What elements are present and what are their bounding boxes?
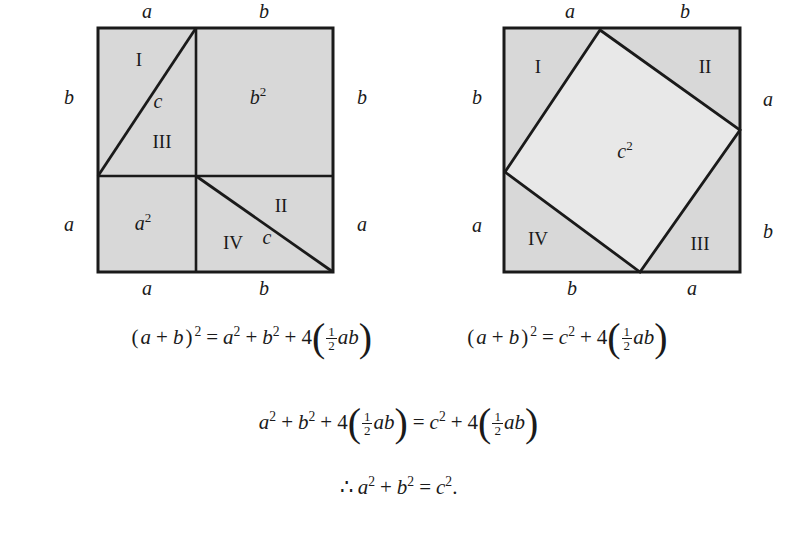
eq1r-fraction-half: 12: [621, 325, 634, 353]
eq3-equals: =: [414, 475, 436, 499]
left-label-bottom-b: b: [259, 277, 269, 299]
right-label-top-a: a: [565, 0, 575, 22]
dissection-square-right: a b b a a b b a I II III IV c2: [472, 0, 773, 299]
left-label-region-I: I: [136, 49, 142, 70]
left-label-hypotenuse-c-upper: c: [154, 90, 163, 112]
right-label-bottom-b: b: [567, 277, 577, 299]
eq2-a: a: [259, 410, 270, 434]
eq3-b: b: [397, 475, 408, 499]
right-label-bottom-a: a: [687, 277, 697, 299]
left-label-region-III: III: [153, 131, 172, 152]
eq2-big-lparen-2: (: [478, 411, 491, 436]
eq1r-frac-num: 1: [622, 325, 633, 338]
eq2-equals: =: [408, 410, 430, 434]
eq3-therefore-symbol: ∴: [340, 475, 358, 499]
left-label-top-b: b: [259, 0, 269, 22]
eq2-four-1: 4: [337, 410, 348, 434]
eq1l-a2: a: [223, 325, 234, 349]
equation-row-2: a2+b2+4(12ab)=c2+4(12ab): [0, 410, 797, 438]
eq1r-big-rparen: ): [654, 326, 667, 351]
eq1r-close-paren: ): [519, 325, 530, 349]
eq2-b: b: [298, 410, 309, 434]
eq2-fraction-half-1: 12: [361, 410, 374, 438]
eq1r-a: a: [476, 325, 487, 349]
eq1r-b: b: [509, 325, 520, 349]
eq2-big-lparen-1: (: [348, 411, 361, 436]
left-label-top-a: a: [142, 0, 152, 22]
eq2-ab-1: ab: [373, 410, 394, 434]
equation-right-expansion: (a+b)2=c2+4(12ab): [465, 325, 667, 353]
eq1l-close-paren: ): [183, 325, 194, 349]
eq3-c: c: [436, 475, 445, 499]
eq2-plus-3: +: [446, 410, 468, 434]
eq1l-b: b: [173, 325, 184, 349]
eq2-frac1-num: 1: [362, 410, 373, 423]
eq1l-ab: ab: [338, 325, 359, 349]
right-label-region-I: I: [535, 56, 541, 77]
eq1l-b2-exp: 2: [273, 324, 280, 339]
right-label-top-b: b: [680, 0, 690, 22]
left-label-bottom-a: a: [142, 277, 152, 299]
eq2-fraction-half-2: 12: [491, 410, 504, 438]
eq1r-exp-2: 2: [530, 324, 537, 339]
right-label-left-b: b: [472, 86, 482, 108]
equation-row-1: (a+b)2=a2+b2+4(12ab) (a+b)2=c2+4(12ab): [0, 325, 797, 353]
right-label-region-III: III: [691, 233, 710, 254]
eq1l-open-paren: (: [130, 325, 141, 349]
eq1r-frac-den: 2: [622, 338, 633, 352]
pythagorean-proof-figure: a b b a b a a b I c III II IV c a2 b2: [0, 0, 797, 535]
eq2-four-2: 4: [468, 410, 479, 434]
eq1r-open-paren: (: [465, 325, 476, 349]
eq3-a-exp: 2: [368, 474, 375, 489]
right-label-region-IV: IV: [528, 228, 548, 249]
eq3-period: .: [452, 475, 457, 499]
right-label-region-II: II: [699, 56, 712, 77]
eq1l-equals: =: [201, 325, 223, 349]
left-label-hypotenuse-c-lower: c: [263, 226, 272, 248]
eq2-frac1-den: 2: [362, 423, 373, 437]
equation-row-3: ∴a2+b2=c2.: [0, 475, 797, 498]
eq1r-c2-exp: 2: [568, 324, 575, 339]
eq1r-big-lparen: (: [607, 326, 620, 351]
eq2-big-rparen-1: ): [394, 411, 407, 436]
equation-left-expansion: (a+b)2=a2+b2+4(12ab): [130, 325, 372, 353]
right-label-left-a: a: [472, 214, 482, 236]
eq1l-four: 4: [301, 325, 312, 349]
eq1l-frac-den: 2: [326, 338, 337, 352]
eq2-c: c: [430, 410, 439, 434]
eq3-plus: +: [375, 475, 397, 499]
eq1r-equals: =: [537, 325, 559, 349]
eq2-plus-1: +: [276, 410, 298, 434]
eq2-ab-2: ab: [504, 410, 525, 434]
eq1l-plus-3: +: [280, 325, 302, 349]
eq1l-a: a: [141, 325, 152, 349]
eq1l-frac-num: 1: [326, 325, 337, 338]
right-label-right-b: b: [763, 220, 773, 242]
eq1r-plus-1: +: [487, 325, 509, 349]
eq1l-plus-2: +: [240, 325, 262, 349]
eq1l-big-rparen: ): [359, 326, 372, 351]
left-label-right-b: b: [357, 86, 367, 108]
eq2-frac2-den: 2: [492, 423, 503, 437]
left-label-left-b: b: [64, 86, 74, 108]
eq1l-fraction-half: 12: [325, 325, 338, 353]
left-label-region-II: II: [275, 195, 288, 216]
eq1l-b2: b: [262, 325, 273, 349]
eq1r-ab: ab: [633, 325, 654, 349]
diagrams-svg: a b b a b a a b I c III II IV c a2 b2: [0, 0, 797, 300]
right-label-right-a: a: [763, 88, 773, 110]
eq1r-four: 4: [597, 325, 608, 349]
eq2-c-exp: 2: [439, 409, 446, 424]
left-label-right-a: a: [357, 213, 367, 235]
eq3-a: a: [358, 475, 369, 499]
left-label-left-a: a: [64, 213, 74, 235]
eq1l-big-lparen: (: [312, 326, 325, 351]
eq2-big-rparen-2: ): [525, 411, 538, 436]
eq2-frac2-num: 1: [492, 410, 503, 423]
dissection-square-left: a b b a b a a b I c III II IV c a2 b2: [64, 0, 367, 299]
equation-combined: a2+b2+4(12ab)=c2+4(12ab): [259, 410, 538, 438]
eq2-plus-2: +: [315, 410, 337, 434]
eq1r-plus-3: +: [575, 325, 597, 349]
eq1r-c2: c: [559, 325, 568, 349]
eq1l-plus-1: +: [151, 325, 173, 349]
